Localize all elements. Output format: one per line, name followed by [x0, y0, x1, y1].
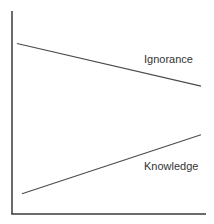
chart: Ignorance Knowledge [0, 0, 214, 224]
ignorance-label: Ignorance [144, 53, 193, 65]
knowledge-label: Knowledge [144, 160, 198, 172]
